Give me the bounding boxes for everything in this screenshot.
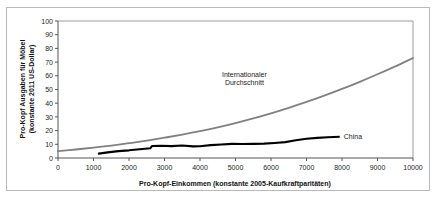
- y-tick-label: 0: [49, 155, 53, 162]
- y-axis-title-line1: Pro-Kopf Ausgaben für Möbel: [19, 39, 27, 138]
- y-tick-label: 80: [45, 45, 53, 52]
- y-tick-label: 10: [45, 141, 53, 148]
- x-tick-label: 2000: [121, 164, 137, 171]
- y-tick-label: 30: [45, 114, 53, 121]
- annotation-internationaler-durchschnitt-line2: Durchschnitt: [225, 79, 264, 86]
- y-tick-label: 100: [41, 18, 53, 25]
- x-tick-label: 0: [56, 164, 60, 171]
- y-tick-label: 50: [45, 86, 53, 93]
- x-axis-ticks: 0100020003000400050006000700080009000100…: [56, 158, 423, 171]
- x-tick-label: 6000: [263, 164, 279, 171]
- y-tick-label: 60: [45, 72, 53, 79]
- x-tick-label: 7000: [299, 164, 315, 171]
- x-tick-label: 3000: [157, 164, 173, 171]
- y-tick-label: 70: [45, 59, 53, 66]
- y-tick-label: 20: [45, 127, 53, 134]
- y-axis-title-line2: (konstante 2011 US-Dollar): [28, 45, 36, 134]
- x-tick-label: 10000: [403, 164, 423, 171]
- annotation-internationaler-durchschnitt-line1: Internationaler: [222, 71, 267, 78]
- y-tick-label: 40: [45, 100, 53, 107]
- x-tick-label: 5000: [228, 164, 244, 171]
- x-tick-label: 9000: [370, 164, 386, 171]
- x-tick-label: 4000: [192, 164, 208, 171]
- y-axis-ticks: 0102030405060708090100: [41, 18, 58, 162]
- annotation-china: China: [344, 133, 362, 140]
- x-tick-label: 8000: [334, 164, 350, 171]
- x-tick-label: 1000: [86, 164, 102, 171]
- line-chart: 0102030405060708090100 01000200030004000…: [0, 0, 439, 201]
- y-tick-label: 90: [45, 31, 53, 38]
- x-axis-title: Pro-Kopf-Einkommen (konstante 2005-Kaufk…: [139, 180, 331, 188]
- chart-figure: 0102030405060708090100 01000200030004000…: [0, 0, 439, 201]
